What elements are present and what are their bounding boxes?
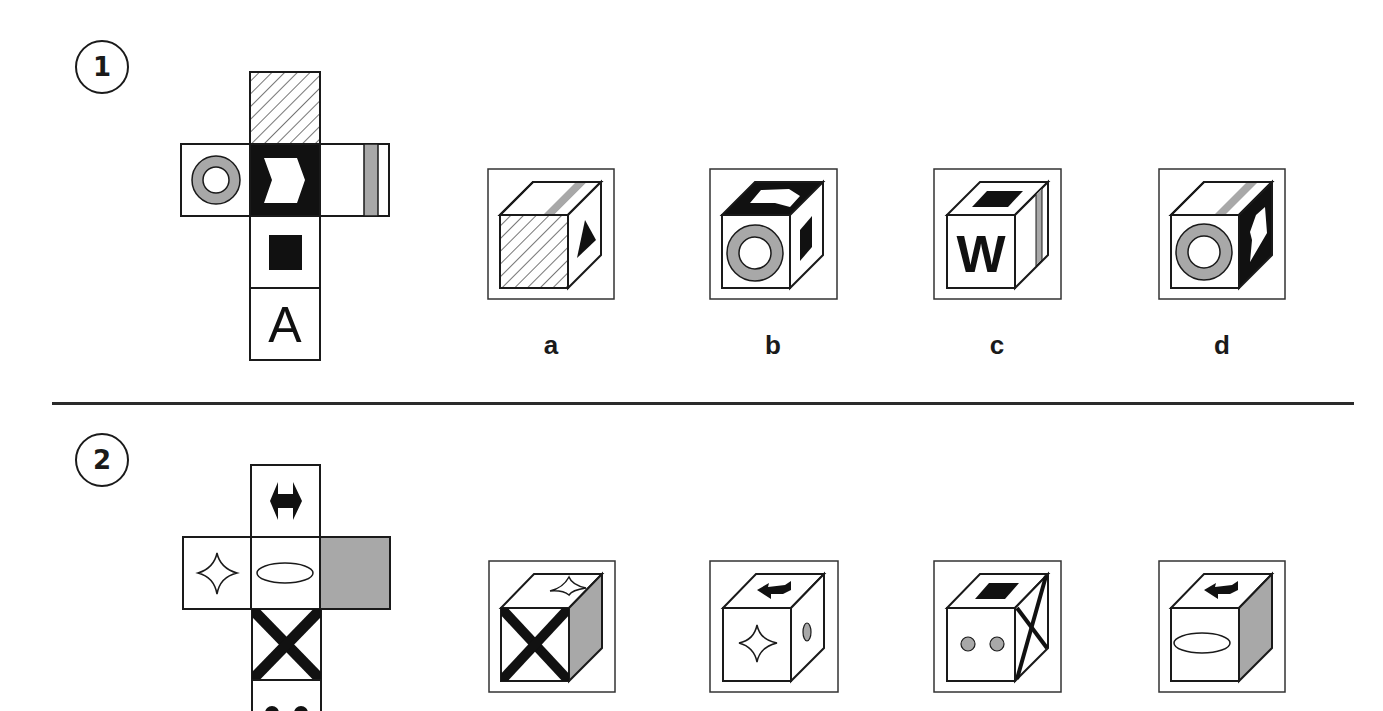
option-a[interactable] xyxy=(488,169,614,299)
option-label-b[interactable]: b xyxy=(753,330,793,361)
net2-face-star xyxy=(183,537,251,609)
net2-face-grey xyxy=(320,537,390,609)
question-number-2: 2 xyxy=(75,433,129,487)
option-label-c[interactable]: c xyxy=(977,330,1017,361)
option-label-d[interactable]: d xyxy=(1202,330,1242,361)
net-face-chevron xyxy=(250,144,320,216)
net2-face-ellipse xyxy=(251,537,320,609)
question-number-label: 2 xyxy=(93,445,111,475)
section-divider xyxy=(52,402,1354,405)
q2-option-3[interactable] xyxy=(934,561,1061,692)
net2-face-dots xyxy=(252,680,321,711)
cube-net-1 xyxy=(0,0,1383,711)
net2-face-double-arrow xyxy=(251,465,320,537)
q2-option-4[interactable] xyxy=(1159,561,1285,692)
option-label-a[interactable]: a xyxy=(531,330,571,361)
q2-option-2[interactable] xyxy=(710,561,838,692)
net-face-hatch xyxy=(250,72,320,144)
net-face-stripe xyxy=(320,144,389,216)
option-d[interactable] xyxy=(1159,169,1285,299)
net-face-ring xyxy=(181,144,250,216)
option-c-letter: W xyxy=(947,215,1015,288)
net-letter-a: A xyxy=(250,288,320,360)
q2-option-1[interactable] xyxy=(489,561,615,692)
option-b[interactable] xyxy=(710,169,837,299)
net-face-square xyxy=(250,216,320,288)
net2-face-x xyxy=(252,609,321,680)
